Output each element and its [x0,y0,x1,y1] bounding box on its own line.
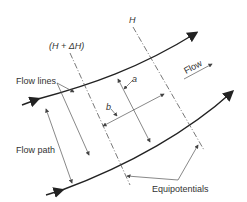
equipotential-h-plus-dh [70,53,130,185]
leader-b [111,109,117,116]
label-b: b [106,102,111,112]
flow-net-diagram: (H + ΔH) H Flow lines Flow a b Flow path… [0,0,247,202]
label-equipotentials: Equipotentials [152,184,209,194]
dimension-a [118,79,150,142]
label-h: H [129,15,136,25]
label-a: a [132,74,137,84]
label-flow: Flow [182,58,204,76]
leader-equipotentials-1 [127,176,178,180]
label-flow-lines: Flow lines [16,76,57,86]
lower-flow-line [62,92,232,190]
leader-flow-lines-2 [57,83,89,155]
lower-flow-line-start-arrow [46,190,62,195]
leader-equipotentials-2 [178,145,198,180]
label-flow-path: Flow path [16,145,55,155]
upper-flow-line-start-arrow [22,99,38,105]
label-h-plus-dh: (H + ΔH) [49,41,84,51]
equipotential-h [133,27,204,150]
